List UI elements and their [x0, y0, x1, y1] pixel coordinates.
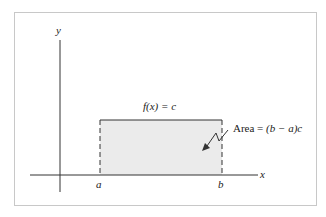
- area-label: Area = (b − a)c: [233, 122, 302, 134]
- function-label: f(x) = c: [143, 100, 176, 112]
- y-axis-label: y: [56, 24, 61, 36]
- area-label-expr: (b − a)c: [266, 122, 302, 134]
- area-label-prefix: Area =: [233, 122, 266, 134]
- point-b-label: b: [218, 178, 224, 190]
- point-a-label: a: [96, 178, 102, 190]
- x-axis-label: x: [260, 168, 265, 180]
